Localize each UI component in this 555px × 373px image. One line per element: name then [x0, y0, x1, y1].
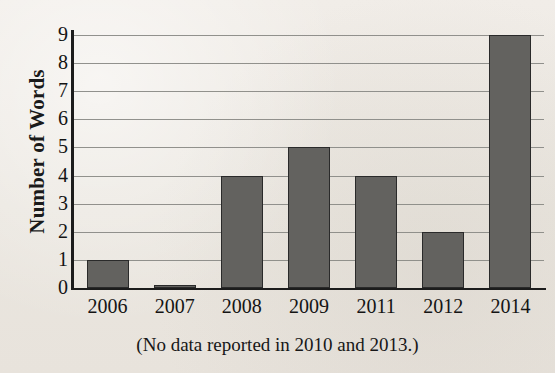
- y-tick-label-3: 3: [16, 193, 68, 213]
- gridline-7: [74, 91, 544, 92]
- x-axis-line: [71, 288, 546, 290]
- x-tick-label-2009: 2009: [275, 295, 342, 317]
- y-tick-label-2: 2: [16, 221, 68, 241]
- bar-2011: [355, 176, 397, 288]
- y-tick-label-8: 8: [16, 52, 68, 72]
- x-tick-label-2014: 2014: [477, 295, 544, 317]
- y-tick-label-4: 4: [16, 165, 68, 185]
- y-tick-label-7: 7: [16, 80, 68, 100]
- bar-2009: [288, 147, 330, 288]
- x-axis-tick-labels: 2006200720082009201120122014: [74, 295, 544, 325]
- y-axis-tick-labels: 9876543210: [8, 0, 68, 373]
- gridline-9: [74, 35, 544, 36]
- plot-area: [74, 35, 544, 288]
- x-tick-label-2008: 2008: [208, 295, 275, 317]
- bar-2014: [489, 35, 531, 288]
- gridline-8: [74, 63, 544, 64]
- bar-chart: Number of Words 9876543210 2006200720082…: [0, 0, 555, 373]
- bar-2008: [221, 176, 263, 288]
- x-tick-label-2011: 2011: [343, 295, 410, 317]
- x-tick-label-2007: 2007: [141, 295, 208, 317]
- x-tick-label-2012: 2012: [410, 295, 477, 317]
- y-tick-label-9: 9: [16, 24, 68, 44]
- bar-2007: [154, 285, 196, 288]
- y-tick-label-5: 5: [16, 136, 68, 156]
- y-tick-label-0: 0: [16, 277, 68, 297]
- gridline-6: [74, 119, 544, 120]
- bar-2012: [422, 232, 464, 288]
- x-tick-label-2006: 2006: [74, 295, 141, 317]
- y-tick-label-6: 6: [16, 108, 68, 128]
- chart-caption: (No data reported in 2010 and 2013.): [0, 334, 555, 356]
- y-tick-label-1: 1: [16, 249, 68, 269]
- bar-2006: [87, 260, 129, 288]
